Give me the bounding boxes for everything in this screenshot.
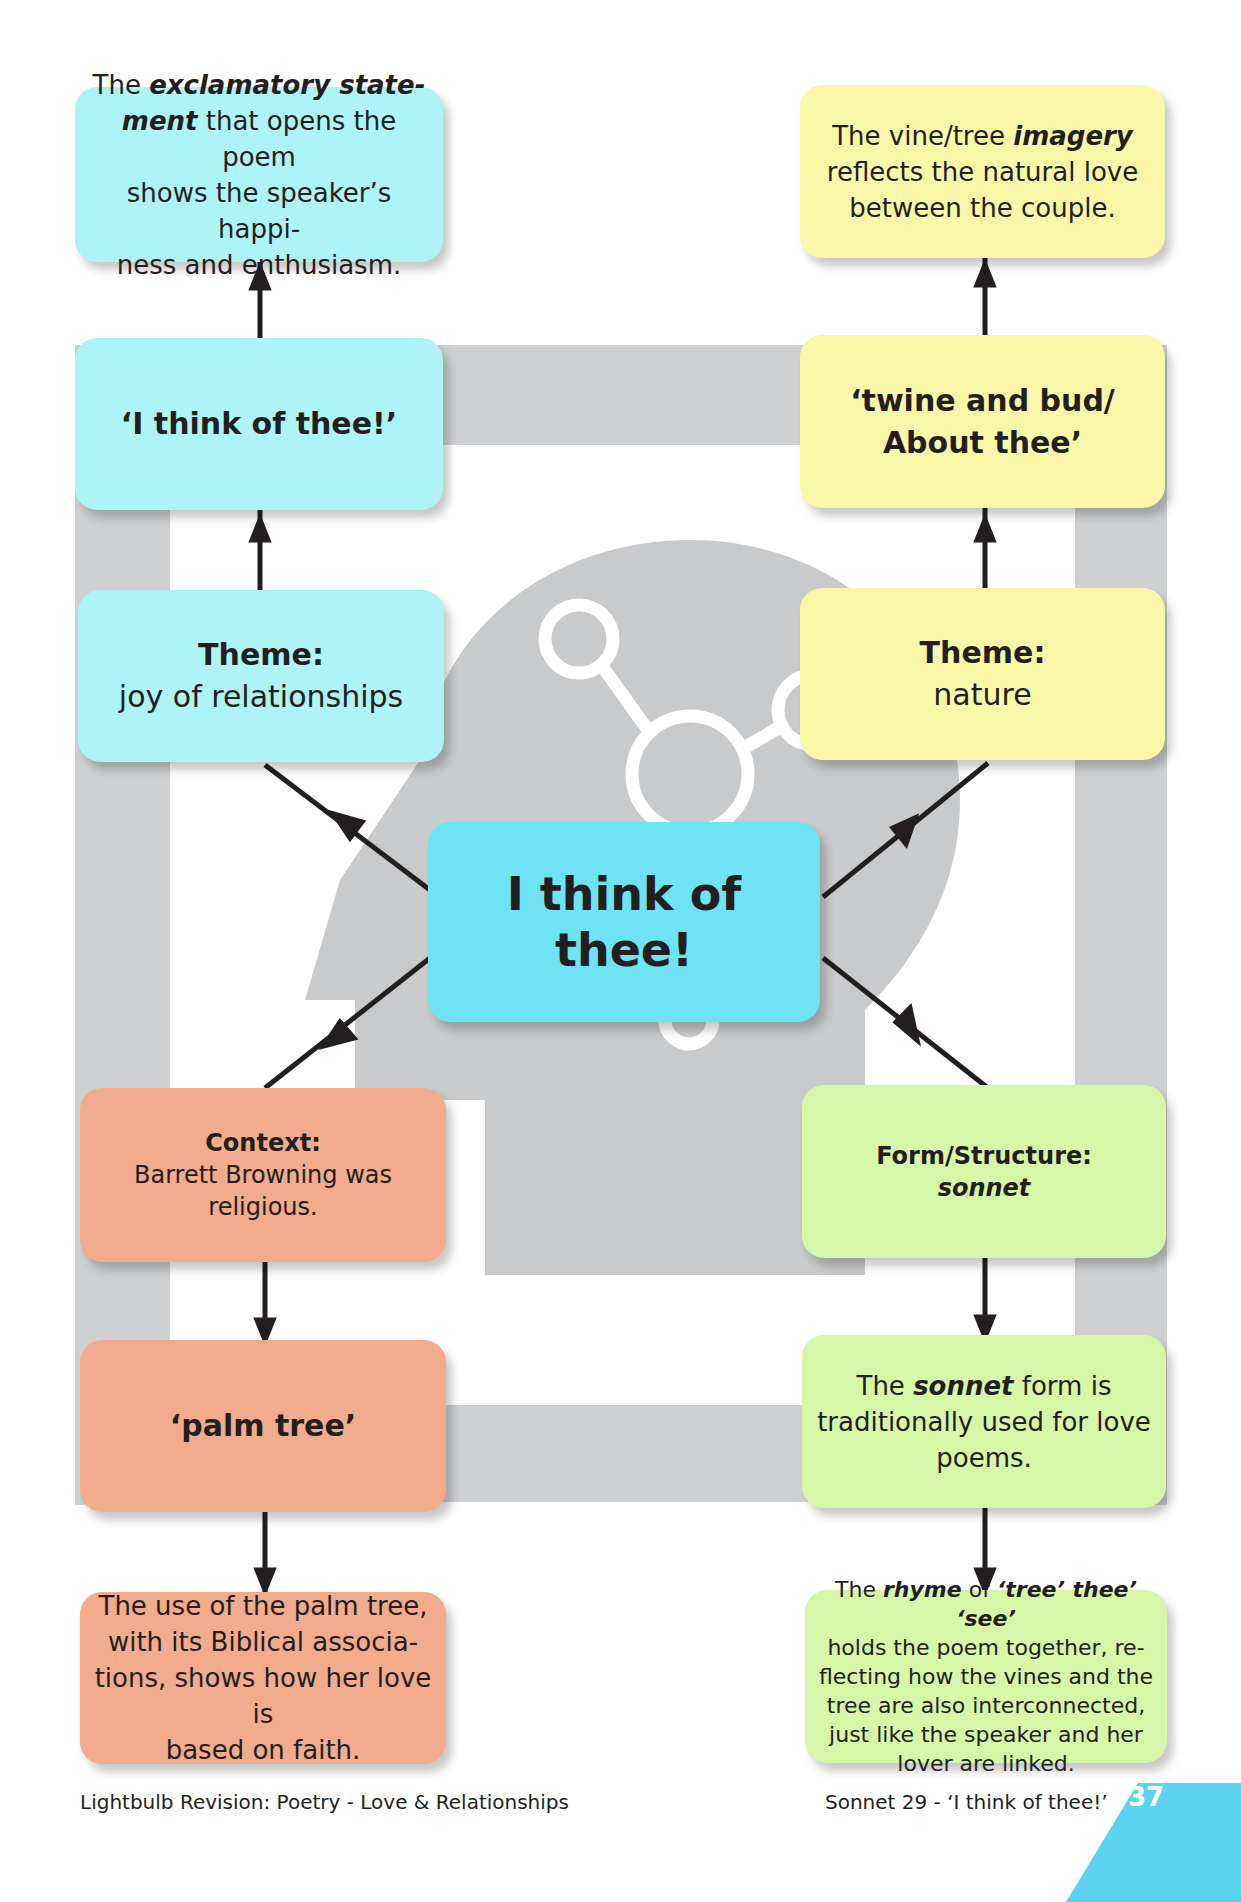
note-emphasis: rhyme (883, 1577, 962, 1602)
note-text: ness and enthusiasm. (117, 250, 401, 280)
note-text: traditionally used for love (817, 1407, 1151, 1437)
note-text: lover are linked. (897, 1751, 1074, 1776)
quote-text: ‘twine and bud/ (850, 383, 1115, 418)
theme-body: joy of relationships (119, 679, 403, 714)
note-emphasis: imagery (1013, 121, 1133, 151)
form-body: sonnet (938, 1174, 1031, 1202)
quote-twine-and-bud: ‘twine and bud/ About thee’ (800, 335, 1165, 508)
note-text: form is (1014, 1371, 1112, 1401)
quote-text: ‘I think of thee!’ (121, 403, 397, 445)
note-text: of (962, 1577, 997, 1602)
note-text: just like the speaker and her (829, 1722, 1143, 1747)
note-text: The (835, 1577, 883, 1602)
note-text: The use of the palm tree, (99, 1591, 428, 1621)
rhyme-note: The rhyme of ‘tree’ thee’ ‘see’ holds th… (805, 1590, 1167, 1763)
sonnet-note: The sonnet form is traditionally used fo… (802, 1335, 1166, 1508)
form-structure-box: Form/Structure: sonnet (802, 1085, 1166, 1258)
palm-tree-note: The use of the palm tree, with its Bibli… (80, 1592, 446, 1764)
note-text: that opens the poem (197, 106, 396, 172)
central-node: I think of thee! (428, 822, 820, 1022)
footer-book-title: Lightbulb Revision: Poetry - Love & Rela… (80, 1790, 569, 1814)
theme-body: nature (933, 677, 1031, 712)
note-text: based on faith. (166, 1735, 361, 1765)
note-text: The (857, 1371, 914, 1401)
quote-text: About thee’ (883, 425, 1082, 460)
note-text: The (93, 70, 150, 100)
note-emphasis: sonnet (913, 1371, 1013, 1401)
note-text: holds the poem together, re- (827, 1635, 1144, 1660)
note-text: shows the speaker’s happi- (127, 178, 392, 244)
theme-title: Theme: (920, 635, 1046, 670)
quote-text: ‘palm tree’ (170, 1405, 356, 1447)
note-text: tree are also interconnected, (827, 1693, 1145, 1718)
note-text: poems. (936, 1443, 1032, 1473)
theme-nature-box: Theme: nature (800, 588, 1165, 760)
context-text: religious. (208, 1193, 317, 1221)
note-text: between the couple. (849, 193, 1115, 223)
quote-i-think-of-thee: ‘I think of thee!’ (75, 338, 443, 510)
theme-title: Theme: (198, 637, 324, 672)
exclamatory-statement-note: The exclamatory state- ment that opens t… (75, 87, 443, 262)
central-title: thee! (555, 923, 693, 977)
note-emphasis: exclamatory state- (149, 70, 425, 100)
note-emphasis: ment (122, 106, 198, 136)
form-title: Form/Structure: (876, 1142, 1092, 1170)
imagery-note: The vine/tree imagery reflects the natur… (800, 85, 1165, 258)
central-title: I think of (507, 867, 742, 921)
note-text: flecting how the vines and the (819, 1664, 1153, 1689)
context-title: Context: (205, 1129, 321, 1157)
page-number: 37 (1128, 1782, 1164, 1812)
context-text: Barrett Browning was (134, 1161, 392, 1189)
note-text: with its Biblical associa- (108, 1627, 418, 1657)
context-box: Context: Barrett Browning was religious. (80, 1088, 446, 1262)
note-text: tions, shows how her love is (95, 1663, 432, 1729)
theme-joy-box: Theme: joy of relationships (78, 590, 444, 762)
note-text: reflects the natural love (827, 157, 1138, 187)
quote-palm-tree: ‘palm tree’ (80, 1340, 446, 1512)
frame-right-bar (1075, 345, 1167, 1505)
frame-left-bar (75, 345, 170, 1505)
note-text: The vine/tree (832, 121, 1013, 151)
